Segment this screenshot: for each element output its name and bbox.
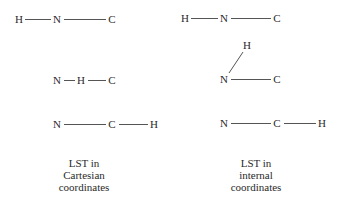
caption-line: LST in	[231, 157, 282, 169]
bond	[231, 79, 271, 80]
atom-n: N	[220, 118, 228, 129]
atom-n: N	[220, 74, 228, 85]
caption-internal: LST in internal coordinates	[231, 157, 282, 193]
caption-line: coordinates	[231, 181, 282, 193]
slanted-bond	[0, 0, 343, 203]
bond	[231, 123, 271, 124]
atom-h: H	[318, 118, 326, 129]
bond	[284, 123, 316, 124]
caption-line: internal	[231, 169, 282, 181]
atom-c: C	[273, 74, 280, 85]
atom-c: C	[273, 118, 280, 129]
